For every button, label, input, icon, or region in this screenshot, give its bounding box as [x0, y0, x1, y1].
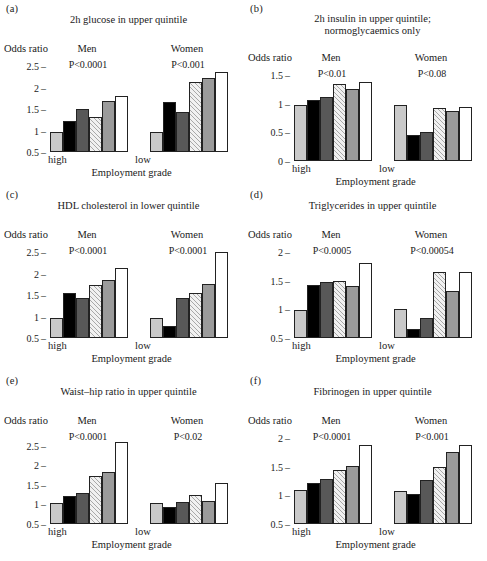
y-tick-value: 2 — [34, 268, 39, 279]
bar-women-4 — [433, 467, 446, 524]
y-tick-value: 1.5 — [271, 275, 284, 286]
panel-title-line: Triglycerides in upper quintile — [258, 200, 487, 212]
bar-women-3 — [176, 298, 189, 338]
bar-men-6 — [359, 82, 372, 161]
bar-women-6 — [459, 107, 472, 161]
panel-title-line: HDL cholesterol in lower quintile — [14, 200, 243, 212]
bar-group-women — [394, 252, 472, 338]
y-tick-label: 0.5– — [27, 519, 49, 530]
y-tick-label: 0.5– — [271, 333, 293, 344]
bar-men-3 — [320, 282, 333, 338]
y-axis-label: Odds ratio — [248, 52, 292, 63]
y-tick-label: 1.5– — [27, 479, 49, 490]
bar-men-5 — [346, 286, 359, 338]
y-tick-mark: – — [41, 333, 46, 344]
bar-women-6 — [215, 252, 228, 338]
bar-women-2 — [163, 507, 176, 524]
y-tick-mark: – — [41, 479, 46, 490]
y-tick-value: 1.5 — [271, 70, 284, 81]
y-tick-mark: – — [285, 156, 290, 167]
y-tick-value: 2.5 — [27, 61, 40, 72]
bar-men-2 — [307, 100, 320, 161]
bar-women-5 — [202, 501, 215, 524]
x-tick-low: low — [379, 526, 395, 537]
y-tick-label: 1– — [278, 490, 292, 501]
group-label-men: Men — [52, 415, 122, 426]
bar-women-3 — [420, 318, 433, 338]
y-tick-label: 2– — [34, 82, 48, 93]
y-tick-label: 1.5– — [271, 275, 293, 286]
bar-women-6 — [215, 72, 228, 152]
bar-women-1 — [150, 503, 163, 525]
x-tick-low: low — [135, 154, 151, 165]
panel-title: 2h glucose in upper quintile — [0, 14, 243, 26]
bar-group-women — [394, 438, 472, 524]
y-tick-label: 0.5– — [27, 147, 49, 158]
y-axis-label: Odds ratio — [248, 415, 292, 426]
y-tick-value: 1 — [34, 499, 39, 510]
group-label-men: Men — [52, 229, 122, 240]
y-tick-value: 2.5 — [27, 247, 40, 258]
group-label-women: Women — [152, 415, 222, 426]
group-label-women: Women — [396, 415, 466, 426]
y-tick-mark: – — [285, 433, 290, 444]
bar-men-5 — [102, 472, 115, 524]
y-tick-mark: – — [41, 460, 46, 471]
bar-men-1 — [294, 490, 307, 524]
y-tick-label: 0.5– — [27, 333, 49, 344]
bar-men-6 — [359, 445, 372, 524]
bar-women-4 — [433, 272, 446, 338]
bar-women-1 — [150, 132, 163, 152]
bar-group-women — [150, 66, 228, 152]
y-tick-label: 2.5– — [27, 61, 49, 72]
y-tick-value: 1 — [34, 311, 39, 322]
bar-men-5 — [346, 89, 359, 161]
bar-women-4 — [189, 495, 202, 524]
y-tick-mark: – — [41, 499, 46, 510]
y-tick-label: 2– — [278, 433, 292, 444]
bar-group-men — [294, 252, 372, 338]
y-tick-label: 1– — [34, 311, 48, 322]
x-tick-low: low — [135, 340, 151, 351]
bar-men-3 — [320, 479, 333, 524]
bar-women-3 — [420, 480, 433, 524]
y-tick-value: 1 — [278, 304, 283, 315]
x-tick-high: high — [48, 154, 67, 165]
x-axis-label: Employment grade — [244, 353, 487, 364]
y-tick-mark: – — [285, 98, 290, 109]
bar-men-6 — [115, 96, 128, 152]
y-tick-mark: – — [41, 440, 46, 451]
bar-men-4 — [333, 281, 346, 338]
panel-letter: (f) — [250, 375, 261, 386]
group-label-women: Women — [396, 229, 466, 240]
plot-area: 0.5–1–1.5–2–2.5– — [48, 66, 233, 152]
bar-women-1 — [394, 491, 407, 524]
panel-letter: (a) — [6, 3, 18, 14]
y-tick-value: 2 — [278, 247, 283, 258]
group-label-men: Men — [296, 52, 366, 63]
bar-women-5 — [202, 78, 215, 152]
bar-women-5 — [446, 111, 459, 161]
x-tick-high: high — [48, 526, 67, 537]
x-axis-label: Employment grade — [0, 353, 243, 364]
y-tick-mark: – — [41, 311, 46, 322]
bar-group-women — [150, 438, 228, 524]
bar-women-5 — [446, 291, 459, 338]
y-tick-mark: – — [41, 247, 46, 258]
panel-title: 2h insulin in upper quintile;normoglycae… — [244, 13, 487, 36]
y-tick-value: 0.5 — [271, 127, 284, 138]
bar-men-4 — [89, 117, 102, 152]
bar-men-2 — [307, 285, 320, 338]
x-tick-high: high — [292, 163, 311, 174]
bar-men-5 — [102, 280, 115, 338]
x-axis-label: Employment grade — [0, 167, 243, 178]
bar-men-5 — [346, 466, 359, 524]
bar-group-men — [50, 66, 128, 152]
y-tick-value: 1 — [278, 490, 283, 501]
y-axis-label: Odds ratio — [4, 229, 48, 240]
x-tick-low: low — [379, 163, 395, 174]
panel-title: HDL cholesterol in lower quintile — [0, 200, 243, 212]
y-tick-mark: – — [41, 147, 46, 158]
bar-men-2 — [63, 293, 76, 338]
y-tick-value: 0.5 — [271, 333, 284, 344]
